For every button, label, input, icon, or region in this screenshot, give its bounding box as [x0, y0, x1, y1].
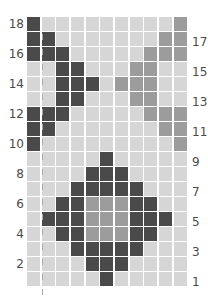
row-label-10: 10 — [2, 137, 24, 151]
grid-cell — [71, 272, 84, 286]
row-label-7: 7 — [192, 185, 200, 199]
grid-cell — [42, 227, 55, 241]
grid-cell — [56, 182, 69, 196]
grid-cell — [100, 137, 113, 151]
grid-cell — [86, 47, 99, 61]
grid-cell — [100, 92, 113, 106]
grid-cell — [27, 182, 40, 196]
guide-dash — [42, 34, 44, 40]
guide-dash — [42, 214, 44, 220]
grid-cell — [42, 167, 55, 181]
grid-cell — [174, 242, 187, 256]
grid-cell — [42, 212, 55, 226]
grid-cell — [56, 152, 69, 166]
grid-cell — [86, 257, 99, 271]
grid-cell — [27, 47, 40, 61]
grid-cell — [174, 77, 187, 91]
guide-dash — [42, 169, 44, 175]
grid-cell — [71, 17, 84, 31]
grid-cell — [174, 32, 187, 46]
grid-cell — [86, 77, 99, 91]
row-label-1: 1 — [192, 275, 200, 289]
grid-cell — [174, 107, 187, 121]
grid-cell — [27, 167, 40, 181]
grid-cell — [56, 167, 69, 181]
grid-cell — [56, 77, 69, 91]
grid-cell — [56, 227, 69, 241]
grid-cell — [159, 152, 172, 166]
grid-cell — [130, 32, 143, 46]
grid-cell — [71, 92, 84, 106]
row-label-11: 11 — [192, 125, 207, 139]
row-label-6: 6 — [2, 197, 24, 211]
grid-cell — [174, 257, 187, 271]
grid-cell — [115, 242, 128, 256]
grid-cell — [71, 137, 84, 151]
grid-cell — [144, 77, 157, 91]
grid-cell — [115, 137, 128, 151]
grid-cell — [86, 107, 99, 121]
grid-cell — [42, 152, 55, 166]
row-label-12: 12 — [2, 107, 24, 121]
grid-cell — [27, 152, 40, 166]
grid-cell — [86, 137, 99, 151]
grid-cell — [115, 212, 128, 226]
grid-cell — [42, 272, 55, 286]
grid-cell — [27, 62, 40, 76]
guide-dash — [42, 199, 44, 205]
grid-cell — [100, 272, 113, 286]
row-label-17: 17 — [192, 35, 207, 49]
grid-cell — [130, 242, 143, 256]
grid-cell — [100, 152, 113, 166]
guide-dash — [42, 289, 44, 295]
grid-cell — [159, 242, 172, 256]
grid-cell — [144, 197, 157, 211]
grid-cell — [100, 257, 113, 271]
grid-cell — [174, 62, 187, 76]
grid-cell — [174, 152, 187, 166]
grid-cell — [144, 17, 157, 31]
grid-cell — [56, 272, 69, 286]
grid-cell — [115, 272, 128, 286]
stitch-chart-grid — [27, 17, 188, 287]
grid-cell — [86, 32, 99, 46]
grid-cell — [130, 257, 143, 271]
grid-cell — [71, 182, 84, 196]
grid-cell — [56, 32, 69, 46]
row-label-13: 13 — [192, 95, 207, 109]
grid-cell — [100, 227, 113, 241]
grid-cell — [159, 122, 172, 136]
grid-cell — [100, 107, 113, 121]
grid-cell — [144, 122, 157, 136]
guide-dash — [42, 154, 44, 160]
grid-cell — [115, 62, 128, 76]
grid-cell — [27, 227, 40, 241]
grid-cell — [42, 107, 55, 121]
grid-cell — [174, 212, 187, 226]
grid-cell — [159, 92, 172, 106]
grid-cell — [130, 227, 143, 241]
grid-cell — [159, 62, 172, 76]
guide-dash — [42, 139, 44, 145]
grid-cell — [130, 167, 143, 181]
grid-cell — [86, 182, 99, 196]
guide-dash — [42, 184, 44, 190]
grid-cell — [27, 212, 40, 226]
grid-cell — [130, 77, 143, 91]
grid-cell — [71, 32, 84, 46]
grid-cell — [130, 47, 143, 61]
grid-cell — [86, 242, 99, 256]
grid-cell — [100, 47, 113, 61]
grid-cell — [130, 92, 143, 106]
grid-cell — [144, 242, 157, 256]
grid-cell — [174, 197, 187, 211]
grid-cell — [86, 62, 99, 76]
grid-cell — [159, 47, 172, 61]
grid-cell — [56, 212, 69, 226]
guide-dash — [42, 79, 44, 85]
grid-cell — [144, 182, 157, 196]
grid-cell — [115, 197, 128, 211]
guide-dash — [42, 274, 44, 280]
grid-cell — [86, 92, 99, 106]
grid-cell — [27, 17, 40, 31]
